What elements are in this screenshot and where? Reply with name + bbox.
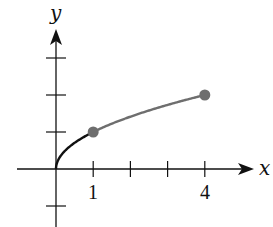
curves [56,95,205,169]
x-tick-label-1: 1 [88,181,98,203]
curve-sqrt-0-to-1 [56,132,93,169]
points [88,90,211,138]
sqrt-graph: x y 1 4 [0,0,273,227]
curve-sqrt-1-to-4 [93,95,205,132]
axes: x y [17,1,270,227]
ticks [46,58,205,206]
tick-labels: 1 4 [88,181,210,203]
data-point-1-1 [88,127,99,138]
x-axis-label: x [259,156,270,180]
y-axis-label: y [49,1,62,25]
data-point-4-2 [199,90,210,101]
x-tick-label-4: 4 [200,181,210,203]
